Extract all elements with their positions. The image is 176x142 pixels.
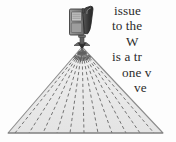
text-line: issue [112, 3, 176, 18]
text-line: one v [112, 65, 176, 80]
device-top-notch [82, 9, 85, 13]
text-line: is a tr [112, 49, 176, 64]
body-text-column: issue to the W is a tr one v ve [112, 3, 176, 95]
text-line: to the [112, 18, 176, 33]
text-line: W [112, 34, 176, 49]
text-line: ve [112, 80, 176, 95]
device-lower-face [71, 23, 81, 33]
figure-page: issue to the W is a tr one v ve [0, 0, 176, 142]
